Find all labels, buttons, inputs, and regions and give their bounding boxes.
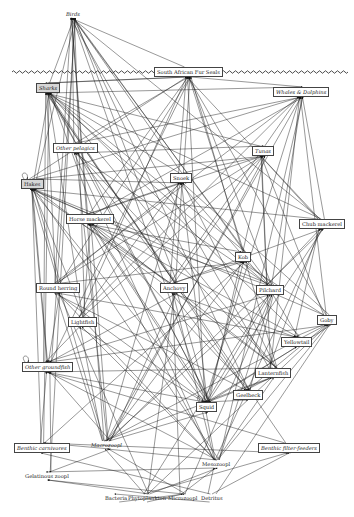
node-yellowtail: Yellowtail — [281, 337, 312, 347]
feeding-link — [31, 189, 104, 441]
feeding-link — [48, 87, 301, 93]
feeding-link — [191, 77, 303, 87]
feeding-link — [267, 229, 320, 285]
feeding-link — [32, 189, 41, 443]
node-whales: Whales & Dolphins — [273, 87, 329, 97]
feeding-link — [79, 183, 179, 317]
feeding-link — [74, 18, 84, 317]
node-squid: Squid — [196, 402, 217, 412]
node-geelbeck: Geelbeck — [233, 390, 263, 400]
node-goby: Goby — [317, 315, 337, 325]
feeding-link — [209, 325, 331, 402]
node-benthfilter: Benthic filter-feeders — [258, 443, 320, 453]
feeding-link — [89, 224, 214, 460]
feeding-link — [271, 97, 300, 368]
feeding-link — [47, 480, 183, 494]
feeding-link — [47, 93, 246, 390]
feeding-link — [189, 77, 244, 252]
node-seals: South African Fur Seals — [154, 67, 223, 77]
feeding-link — [52, 18, 76, 362]
node-othergf: Other groundfish — [22, 362, 73, 372]
node-birds: Birds — [64, 10, 82, 18]
node-macrozoopl: Macrozoopl — [89, 441, 124, 449]
node-sharks: Sharks — [36, 83, 60, 93]
feeding-link — [83, 224, 90, 317]
node-otherpel: Other pelagics — [53, 143, 98, 153]
node-gelzoopl: Gelatinous zoopl — [23, 472, 71, 480]
feeding-link — [40, 372, 46, 443]
feeding-link — [33, 189, 48, 362]
feeding-link — [207, 262, 243, 402]
node-tunas: Tunas — [252, 146, 274, 156]
node-roundherring: Round herring — [36, 283, 80, 293]
node-hakes: Hakes — [21, 179, 44, 189]
node-lanternfish: Lanternfish — [255, 368, 291, 378]
node-microzoopl: Microzoopl — [166, 494, 199, 502]
feeding-link — [79, 327, 205, 402]
feeding-link — [261, 156, 318, 219]
node-pilchard: Pilchard — [256, 285, 284, 295]
feeding-link — [182, 183, 329, 315]
feeding-link — [50, 372, 51, 472]
feeding-link — [148, 293, 175, 494]
node-chubmack: Chub mackerel — [299, 219, 345, 229]
feeding-link — [47, 93, 179, 173]
feeding-link — [76, 146, 263, 153]
feeding-link — [172, 293, 247, 390]
feeding-link — [32, 97, 301, 179]
feeding-link — [172, 293, 295, 337]
feeding-link — [107, 449, 217, 460]
feeding-link — [183, 77, 190, 173]
feeding-link — [71, 18, 185, 67]
node-benthcarn: Benthic carnivores — [14, 443, 70, 453]
feeding-link — [182, 468, 216, 494]
feeding-link — [188, 77, 205, 402]
feeding-link — [272, 97, 302, 285]
feeding-link — [302, 97, 324, 219]
feeding-link — [47, 295, 269, 362]
feeding-link — [295, 229, 319, 337]
node-detritus: Detritus — [199, 494, 225, 502]
feeding-link — [48, 480, 149, 494]
node-mesozoopl: Mesozoopl — [200, 460, 232, 468]
feeding-link — [245, 262, 274, 285]
feeding-link — [37, 179, 184, 183]
feeding-link — [46, 77, 185, 83]
feeding-link — [149, 468, 217, 494]
feeding-link — [56, 293, 205, 402]
node-lightfish: Lightfish — [68, 317, 97, 327]
node-horsemack: Horse mackerel — [66, 214, 114, 224]
feeding-link — [43, 443, 291, 453]
feeding-link — [47, 93, 56, 283]
feeding-link — [46, 468, 214, 472]
feeding-link — [189, 77, 271, 285]
node-anchovy: Anchovy — [160, 283, 188, 293]
feeding-link — [107, 295, 271, 441]
node-snoek: Snoek — [170, 173, 192, 183]
feeding-link — [46, 327, 80, 362]
feeding-link — [34, 189, 219, 460]
node-kob: Kob — [235, 252, 251, 262]
node-phyto: Phytoplankton — [126, 494, 168, 502]
feeding-link — [48, 93, 322, 219]
food-web-diagram — [0, 0, 354, 517]
